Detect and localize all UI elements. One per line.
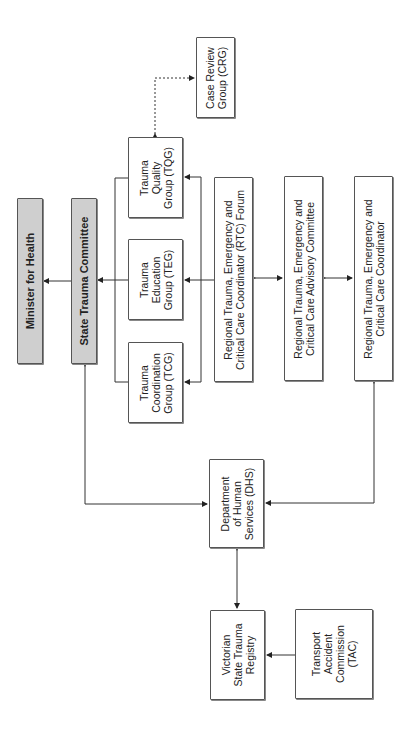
node-trauma-education-group: Trauma Education Group (TEG): [128, 239, 183, 320]
edge-coordinator-dhs: [266, 383, 374, 503]
node-rtc-forum: Regional Trauma, Emergency and Critical …: [214, 177, 253, 382]
node-minister-for-health: Minister for Health: [17, 198, 43, 364]
node-label: Trauma Coordination Group (TCG): [138, 352, 174, 413]
edge-tqg-crg: [155, 78, 194, 134]
node-label: Trauma Education Group (TEG): [138, 249, 174, 310]
node-label: Victorian State Trauma Registry: [220, 623, 256, 686]
node-label: Transport Accident Commission (TAC): [310, 625, 358, 683]
node-case-review-group: Case Review Group (CRG): [196, 37, 235, 118]
node-state-trauma-committee: State Trauma Committee: [71, 198, 97, 364]
node-regional-coordinator: Regional Trauma, Emergency and Critical …: [354, 176, 393, 381]
node-label: Minister for Health: [24, 233, 36, 330]
node-victorian-state-trauma-registry: Victorian State Trauma Registry: [210, 610, 265, 700]
node-trauma-quality-group: Trauma Quality Group (TQG): [128, 137, 183, 218]
node-label: State Trauma Committee: [78, 217, 90, 346]
node-advisory-committee: Regional Trauma, Emergency and Critical …: [284, 176, 323, 381]
node-label: Trauma Quality Group (TQG): [138, 147, 174, 209]
node-label: Regional Trauma, Emergency and Critical …: [292, 199, 316, 358]
node-label: Department of Human Services (DHS): [219, 467, 255, 539]
node-trauma-coordination-group: Trauma Coordination Group (TCG): [128, 342, 183, 423]
org-chart-diagram: Minister for Health State Trauma Committ…: [0, 0, 400, 732]
node-label: Regional Trauma, Emergency and Critical …: [222, 189, 246, 369]
node-department-human-services: Department of Human Services (DHS): [209, 459, 264, 548]
node-transport-accident-commission: Transport Accident Commission (TAC): [295, 609, 373, 699]
node-label: Regional Trauma, Emergency and Critical …: [362, 199, 386, 358]
node-label: Case Review Group (CRG): [204, 46, 228, 108]
